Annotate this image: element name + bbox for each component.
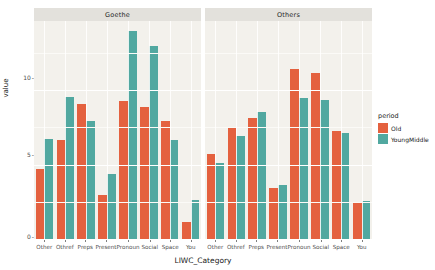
gridline-minor xyxy=(205,127,372,128)
gridline-vertical xyxy=(86,21,87,240)
bar-youngmiddle-social[interactable] xyxy=(149,46,158,240)
legend-label-old: Old xyxy=(391,125,401,132)
bar-youngmiddle-space[interactable] xyxy=(341,133,350,240)
bar-old-othref[interactable] xyxy=(57,140,66,240)
legend-swatch-youngmiddle xyxy=(378,134,388,144)
bar-old-othref[interactable] xyxy=(228,127,237,240)
chart-canvas: value 10- 5- 0- Goethe Others OtherOthre xyxy=(0,0,435,270)
y-tick-5: 5- xyxy=(8,151,34,158)
gridline-vertical xyxy=(320,21,321,240)
bar-groups-goethe xyxy=(34,21,201,240)
facet-panel-goethe: Goethe xyxy=(34,8,201,240)
legend-item-old[interactable]: Old xyxy=(378,123,434,133)
bar-old-preps[interactable] xyxy=(248,118,257,240)
gridline-vertical xyxy=(149,21,150,240)
gridline-minor xyxy=(205,53,372,54)
bar-old-other[interactable] xyxy=(36,169,45,241)
bar-youngmiddle-present[interactable] xyxy=(278,185,287,240)
bar-youngmiddle-you[interactable] xyxy=(362,201,371,240)
gridline-vertical xyxy=(215,21,216,240)
legend-title: period xyxy=(378,112,434,120)
gridline-vertical xyxy=(362,21,363,240)
bar-youngmiddle-othref[interactable] xyxy=(236,136,245,240)
bar-old-pronoun[interactable] xyxy=(290,69,299,240)
facet-panel-others: Others xyxy=(205,8,372,240)
gridline-major xyxy=(34,90,201,91)
facet-strip-others: Others xyxy=(205,8,372,21)
bar-old-space[interactable] xyxy=(332,131,341,240)
legend-swatch-old xyxy=(378,123,388,133)
y-tick-5-label: 5 xyxy=(27,151,31,158)
bar-old-space[interactable] xyxy=(161,121,170,240)
bar-old-other[interactable] xyxy=(207,154,216,240)
bar-youngmiddle-space[interactable] xyxy=(170,140,179,240)
bar-youngmiddle-you[interactable] xyxy=(191,200,200,240)
y-tick-0-label: 0 xyxy=(27,233,31,240)
facet-panels: Goethe Others xyxy=(34,8,372,240)
gridline-major xyxy=(34,165,201,166)
bar-old-you[interactable] xyxy=(353,203,362,240)
bar-youngmiddle-othref[interactable] xyxy=(65,97,74,240)
bar-old-you[interactable] xyxy=(182,222,191,240)
gridline-minor xyxy=(34,202,201,203)
x-axis-title: LIWC_Category xyxy=(34,256,372,265)
gridline-vertical xyxy=(44,21,45,240)
plot-area-goethe xyxy=(34,21,201,240)
y-axis: 10- 5- 0- xyxy=(8,0,34,270)
bar-groups-others xyxy=(205,21,372,240)
gridline-vertical xyxy=(65,21,66,240)
bar-youngmiddle-other[interactable] xyxy=(44,139,53,240)
gridline-minor xyxy=(205,202,372,203)
gridline-vertical xyxy=(257,21,258,240)
gridline-vertical xyxy=(128,21,129,240)
bar-old-pronoun[interactable] xyxy=(119,101,128,240)
gridline-vertical xyxy=(107,21,108,240)
gridline-major xyxy=(205,165,372,166)
y-tick-0: 0- xyxy=(8,233,34,240)
bar-youngmiddle-preps[interactable] xyxy=(86,121,95,240)
bar-old-present[interactable] xyxy=(269,188,278,240)
gridline-minor xyxy=(34,53,201,54)
bar-youngmiddle-social[interactable] xyxy=(320,100,329,240)
bar-old-preps[interactable] xyxy=(77,104,86,240)
bar-youngmiddle-pronoun[interactable] xyxy=(128,31,137,240)
gridline-vertical xyxy=(236,21,237,240)
facet-strip-goethe: Goethe xyxy=(34,8,201,21)
legend-item-youngmiddle[interactable]: YoungMiddle xyxy=(378,134,434,144)
gridline-vertical xyxy=(299,21,300,240)
gridline-vertical xyxy=(191,21,192,240)
plot-area-others xyxy=(205,21,372,240)
y-tick-10-label: 10 xyxy=(23,74,31,81)
gridline-vertical xyxy=(341,21,342,240)
gridline-vertical xyxy=(278,21,279,240)
gridline-minor xyxy=(34,127,201,128)
gridline-major xyxy=(205,90,372,91)
bar-youngmiddle-preps[interactable] xyxy=(257,112,266,240)
legend: period Old YoungMiddle xyxy=(378,112,434,145)
bar-youngmiddle-present[interactable] xyxy=(107,174,116,240)
legend-label-youngmiddle: YoungMiddle xyxy=(391,136,429,143)
y-tick-10: 10- xyxy=(8,74,34,81)
bar-youngmiddle-pronoun[interactable] xyxy=(299,98,308,240)
gridline-vertical xyxy=(170,21,171,240)
bar-old-social[interactable] xyxy=(311,73,320,240)
